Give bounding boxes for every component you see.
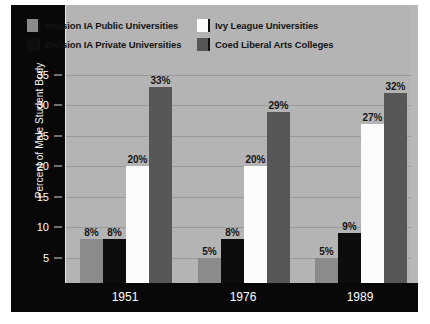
bar-value-label: 33% <box>150 75 170 86</box>
y-axis-tick-label: 10 <box>37 221 49 233</box>
legend: Division IA Public UniversitiesIvy Leagu… <box>27 17 357 53</box>
y-axis-tick-mark <box>54 75 62 76</box>
bar-value-label: 5% <box>202 246 216 257</box>
legend-swatch-icon <box>197 19 210 32</box>
legend-item-label: Division IA Public Universities <box>45 20 178 31</box>
y-axis-tick-mark <box>54 257 62 258</box>
bar[interactable] <box>126 166 149 288</box>
bar[interactable] <box>149 87 172 288</box>
bar-value-label: 27% <box>362 112 382 123</box>
legend-item-label: Division IA Private Universities <box>45 39 181 50</box>
x-axis-band: 195119761989 <box>11 283 418 312</box>
bar-chart: 8%8%20%33%5%8%20%29%5%9%27%32% Percent o… <box>11 5 418 312</box>
bar[interactable] <box>103 239 126 288</box>
y-axis-tick-label: 35 <box>37 69 49 81</box>
bar-value-label: 9% <box>342 221 356 232</box>
legend-item[interactable]: Coed Liberal Arts Colleges <box>197 36 357 53</box>
bar[interactable] <box>338 233 361 288</box>
bar[interactable] <box>361 124 384 288</box>
y-axis-tick-label: 20 <box>37 160 49 172</box>
legend-swatch-icon <box>27 19 40 32</box>
y-axis-tick-mark <box>54 105 62 106</box>
legend-item[interactable]: Ivy League Universities <box>197 17 357 34</box>
y-axis-tick-mark <box>54 196 62 197</box>
bar-value-label: 8% <box>84 227 98 238</box>
y-axis-tick-mark <box>54 135 62 136</box>
y-axis-tick-label: 30 <box>37 99 49 111</box>
y-axis-tick-label: 25 <box>37 130 49 142</box>
bar-wrapper: 32% <box>384 5 407 283</box>
x-axis-tick-label: 1989 <box>314 290 406 304</box>
bar[interactable] <box>267 112 290 288</box>
legend-item[interactable]: Division IA Public Universities <box>27 17 187 34</box>
x-axis-tick-label: 1976 <box>197 290 289 304</box>
y-axis-tick-label: 5 <box>43 252 49 264</box>
bar-value-label: 20% <box>245 154 265 165</box>
bar-wrapper: 27% <box>361 5 384 283</box>
legend-swatch-icon <box>197 38 210 51</box>
y-axis-tick-mark <box>54 166 62 167</box>
x-axis-tick-label: 1951 <box>79 290 171 304</box>
bar[interactable] <box>221 239 244 288</box>
bar-value-label: 8% <box>107 227 121 238</box>
legend-item-label: Ivy League Universities <box>215 20 318 31</box>
bar[interactable] <box>244 166 267 288</box>
y-axis-tick-mark <box>54 227 62 228</box>
bar-value-label: 32% <box>385 81 405 92</box>
bar[interactable] <box>80 239 103 288</box>
bar[interactable] <box>384 93 407 288</box>
legend-swatch-icon <box>27 38 40 51</box>
legend-item[interactable]: Division IA Private Universities <box>27 36 187 53</box>
bar-value-label: 8% <box>225 227 239 238</box>
bar-value-label: 20% <box>127 154 147 165</box>
legend-item-label: Coed Liberal Arts Colleges <box>215 39 333 50</box>
bar-value-label: 5% <box>319 246 333 257</box>
y-axis-tick-label: 15 <box>37 191 49 203</box>
bar-value-label: 29% <box>268 100 288 111</box>
